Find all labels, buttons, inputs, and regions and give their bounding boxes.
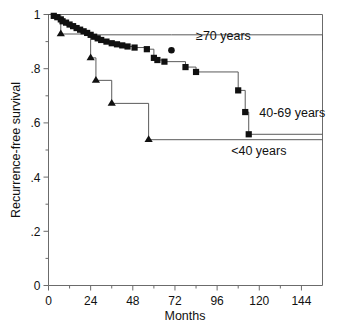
y-axis-title: Recurrence-free survival (9, 82, 23, 218)
x-tick-label: 96 (210, 294, 224, 308)
x-tick-label: 0 (45, 294, 52, 308)
censor-marker-circle (168, 47, 175, 54)
series-label-70years: ≥70 years (196, 29, 251, 43)
x-axis-ticks (49, 286, 302, 291)
censor-marker-triangle (145, 135, 153, 142)
km-survival-figure: 024487296120144 0.2.4.6.81 ≥70 years40-6… (0, 0, 338, 333)
censor-marker-square (246, 131, 252, 137)
censor-marker-triangle (108, 99, 116, 106)
series-label-4069years: 40-69 years (259, 106, 325, 120)
series-annotation-layer: ≥70 years40-69 years<40 years (196, 29, 325, 158)
censor-marker-triangle (92, 76, 100, 83)
y-tick-label: 1 (34, 8, 41, 22)
censor-marker-square (131, 44, 137, 50)
y-tick-label: .4 (30, 171, 40, 185)
censor-marker-square (154, 57, 160, 63)
x-tick-label: 72 (168, 294, 182, 308)
censor-marker-square (193, 69, 199, 75)
censor-marker-square (182, 64, 188, 70)
y-axis-ticks (44, 15, 49, 286)
y-tick-label: 0 (34, 279, 41, 293)
censor-marker-square (124, 43, 130, 49)
y-tick-label: .2 (30, 225, 40, 239)
x-axis-title: Months (165, 309, 206, 323)
x-tick-label: 24 (84, 294, 98, 308)
censor-marker-square (235, 87, 241, 93)
survival-chart-canvas: 024487296120144 0.2.4.6.81 ≥70 years40-6… (0, 0, 338, 333)
x-axis-tick-labels: 024487296120144 (45, 294, 312, 308)
censor-marker-square (242, 109, 248, 115)
y-tick-label: .8 (30, 62, 40, 76)
y-axis-tick-labels: 0.2.4.6.81 (30, 8, 40, 293)
censor-marker-square (161, 59, 167, 65)
y-tick-label: .6 (30, 116, 40, 130)
x-tick-label: 48 (126, 294, 140, 308)
x-tick-label: 144 (291, 294, 311, 308)
x-tick-label: 120 (249, 294, 269, 308)
censor-marker-square (144, 46, 150, 52)
censor-marker-triangle (87, 53, 95, 60)
series-label-40years: <40 years (231, 144, 286, 158)
censor-marker-triangle (57, 30, 65, 37)
